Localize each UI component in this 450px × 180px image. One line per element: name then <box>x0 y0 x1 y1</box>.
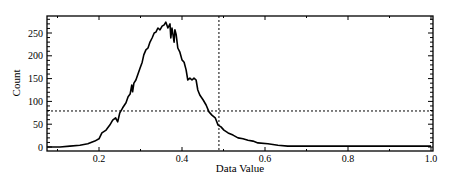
x-tick-label: 1.0 <box>425 153 438 164</box>
x-axis-label: Data Value <box>216 162 264 174</box>
y-tick-label: 0 <box>38 142 43 153</box>
x-tick-label: 0.8 <box>342 153 355 164</box>
x-tick-label: 0.2 <box>93 153 106 164</box>
y-tick-label: 100 <box>28 96 43 107</box>
x-tick-label: 0.4 <box>176 153 189 164</box>
histogram-chart: 0501001502002500.20.40.60.81.0 Data Valu… <box>0 0 450 180</box>
y-tick-label: 50 <box>33 119 43 130</box>
y-tick-label: 200 <box>28 50 43 61</box>
plot-area <box>47 16 433 151</box>
y-tick-label: 250 <box>28 28 43 39</box>
y-tick-label: 150 <box>28 73 43 84</box>
histogram-line <box>47 22 431 147</box>
y-axis-label: Count <box>10 70 22 97</box>
